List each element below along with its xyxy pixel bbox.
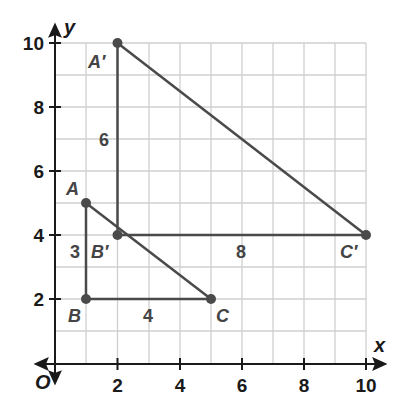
point-b-prime [113, 230, 123, 240]
coordinate-plane: 2 4 6 8 10 10 8 6 4 2 y x O A′ B′ C′ [0, 0, 405, 417]
x-tick-labels: 2 4 6 8 10 [112, 375, 376, 396]
y-tick-labels: 10 8 6 4 2 [23, 33, 45, 310]
svg-text:6: 6 [99, 130, 109, 150]
svg-text:3: 3 [70, 242, 80, 262]
svg-text:6: 6 [237, 375, 248, 396]
point-a [81, 198, 91, 208]
svg-text:8: 8 [299, 375, 310, 396]
svg-text:4: 4 [175, 375, 186, 396]
side-length-labels: 6 8 3 4 [70, 130, 246, 326]
svg-text:2: 2 [112, 375, 123, 396]
svg-text:A: A [65, 179, 79, 199]
y-axis-down-arrow-icon [50, 372, 60, 383]
svg-text:4: 4 [33, 225, 44, 246]
y-axis-up-arrow-icon [50, 25, 60, 36]
point-b [81, 294, 91, 304]
svg-text:8: 8 [236, 242, 246, 262]
point-c [206, 294, 216, 304]
svg-text:10: 10 [355, 375, 376, 396]
svg-text:10: 10 [23, 33, 44, 54]
svg-text:2: 2 [33, 289, 44, 310]
x-axis-label: x [373, 334, 386, 356]
svg-text:B′: B′ [91, 242, 109, 262]
svg-text:B: B [68, 306, 81, 326]
grid [55, 43, 366, 364]
origin-label: O [35, 371, 51, 393]
y-axis-label: y [63, 16, 76, 38]
point-c-prime [361, 230, 371, 240]
svg-text:C: C [216, 306, 230, 326]
svg-text:6: 6 [33, 161, 44, 182]
x-axis-left-arrow-icon [36, 359, 47, 369]
svg-text:8: 8 [33, 97, 44, 118]
point-a-prime [113, 38, 123, 48]
x-axis-right-arrow-icon [374, 359, 385, 369]
svg-text:A′: A′ [87, 52, 106, 72]
svg-text:C′: C′ [340, 242, 358, 262]
svg-text:4: 4 [143, 306, 153, 326]
